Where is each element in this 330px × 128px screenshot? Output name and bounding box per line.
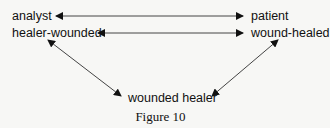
node-wounded-healer: wounded healer <box>128 91 217 105</box>
node-healer-wounded: healer-wounded <box>12 26 102 40</box>
node-patient: patient <box>251 9 289 23</box>
node-analyst: analyst <box>12 9 52 23</box>
arrow-healer-wounded-wounded-healer <box>48 40 121 96</box>
node-wound-healed: wound-healed <box>251 26 330 40</box>
arrow-wound-healed-wounded-healer <box>212 40 278 96</box>
figure-caption: Figure 10 <box>0 109 321 125</box>
